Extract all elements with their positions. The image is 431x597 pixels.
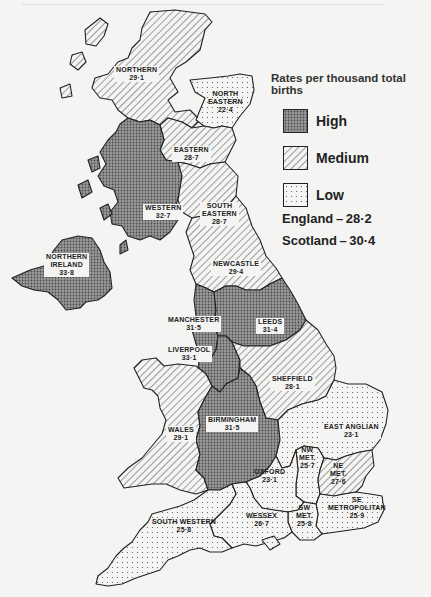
region-name: EASTERN (202, 210, 237, 218)
region-name: WALES (168, 426, 194, 434)
label-northern-ireland: NORTHERN IRELAND 33·8 (44, 253, 89, 277)
region-value: 33·8 (46, 269, 87, 277)
region-name: IRELAND (46, 261, 87, 269)
region-name: BIRMINGHAM (208, 416, 256, 424)
region-name: MET. (299, 454, 316, 462)
region-name: SE (328, 496, 386, 504)
region-value: 29·1 (116, 74, 157, 82)
region-name: WESTERN (145, 204, 181, 212)
region-value: 31·5 (168, 324, 219, 332)
region-name: METROPOLITAN (328, 504, 386, 512)
region-name: LIVERPOOL (168, 346, 210, 354)
label-northern: NORTHERN 29·1 (114, 66, 159, 82)
legend-label: Low (316, 187, 344, 203)
label-liverpool: LIVERPOOL 33·1 (166, 346, 212, 362)
region-value: 25·7 (299, 462, 316, 470)
legend-item-low: Low (283, 183, 431, 207)
region-name: NORTH (208, 90, 243, 98)
high-swatch-icon (283, 109, 308, 133)
label-eastern: EASTERN 28·7 (172, 146, 211, 162)
legend: Rates per thousand total births High Med… (271, 72, 431, 207)
region-name: NORTHERN (116, 66, 157, 74)
region-name: NW (299, 446, 316, 454)
region-name: MET. (330, 470, 347, 478)
region-value: 28·1 (272, 383, 313, 391)
national-totals: England – 28·2 Scotland – 30·4 (282, 208, 375, 252)
label-wales: WALES 29·1 (166, 426, 196, 442)
label-oxford: OXFORD 23·1 (252, 468, 287, 484)
region-value: 22·4 (208, 106, 243, 114)
label-north-eastern: NORTH EASTERN 22·4 (206, 90, 245, 114)
label-sw-met: SW MET. 25·8 (294, 504, 315, 528)
legend-label: Medium (316, 150, 369, 166)
region-value: 25·9 (328, 512, 386, 520)
legend-item-high: High (283, 109, 431, 133)
region-value: 29·4 (213, 268, 259, 276)
region-value: 27·6 (330, 478, 347, 486)
legend-title: Rates per thousand total births (271, 72, 431, 96)
region-value: 26·7 (246, 520, 277, 528)
region-name: LEEDS (258, 318, 282, 326)
region-name: MET. (296, 512, 313, 520)
low-swatch-icon (283, 183, 308, 207)
region-value: 29·1 (168, 434, 194, 442)
region-name: SW (296, 504, 313, 512)
region-name: OXFORD (254, 468, 285, 476)
label-leeds: LEEDS 31·4 (256, 318, 284, 334)
label-ne-met: NE MET. 27·6 (328, 462, 349, 486)
region-value: 33·1 (168, 354, 210, 362)
scotland-total: Scotland – 30·4 (282, 230, 375, 252)
region-value: 23·1 (324, 431, 379, 439)
label-south-western: SOUTH WESTERN 25·8 (150, 518, 218, 534)
region-name: SOUTH (202, 202, 237, 210)
region-wales[interactable] (118, 358, 212, 494)
region-value: 25·8 (152, 526, 216, 534)
region-value: 31·4 (258, 326, 282, 334)
label-east-anglian: EAST ANGLIAN 23·1 (322, 423, 381, 439)
label-sheffield: SHEFFIELD 28·1 (270, 375, 315, 391)
region-name: WESSEX (246, 512, 277, 520)
label-wessex: WESSEX 26·7 (244, 512, 279, 528)
region-name: SOUTH WESTERN (152, 518, 216, 526)
region-value: 28·7 (202, 218, 237, 226)
label-western: WESTERN 32·7 (143, 204, 183, 220)
region-name: EASTERN (174, 146, 209, 154)
legend-label: High (316, 113, 347, 129)
england-total: England – 28·2 (282, 208, 375, 230)
region-value: 28·7 (174, 154, 209, 162)
region-name: NORTHERN (46, 253, 87, 261)
region-name: NE (330, 462, 347, 470)
region-name: MANCHESTER (168, 316, 219, 324)
region-name: SHEFFIELD (272, 375, 313, 383)
label-se-metropolitan: SE METROPOLITAN 25·9 (326, 496, 388, 520)
region-value: 25·8 (296, 520, 313, 528)
legend-item-medium: Medium (283, 146, 431, 170)
region-name: EASTERN (208, 98, 243, 106)
region-value: 31·5 (208, 424, 256, 432)
region-value: 23·1 (254, 476, 285, 484)
label-birmingham: BIRMINGHAM 31·5 (206, 416, 258, 432)
region-name: EAST ANGLIAN (324, 423, 379, 431)
label-nw-met: NW MET. 25·7 (297, 446, 318, 470)
medium-swatch-icon (283, 146, 308, 170)
label-south-eastern: SOUTH EASTERN 28·7 (200, 202, 239, 226)
label-manchester: MANCHESTER 31·5 (166, 316, 221, 332)
region-name: NEWCASTLE (213, 260, 259, 268)
region-value: 32·7 (145, 212, 181, 220)
label-newcastle: NEWCASTLE 29·4 (211, 260, 261, 276)
